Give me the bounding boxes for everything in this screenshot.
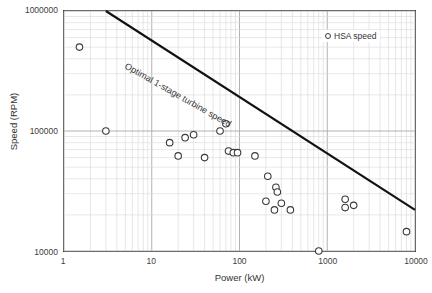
data-point[interactable] — [182, 134, 189, 141]
data-point[interactable] — [175, 153, 182, 160]
scatter-chart: 100001000001000000 110100100010000 Power… — [0, 0, 432, 293]
data-point[interactable] — [103, 128, 110, 135]
plot-area — [63, 10, 416, 252]
data-point[interactable] — [76, 44, 83, 51]
y-tick-label: 1000000 — [25, 5, 58, 15]
legend[interactable]: HSA speed — [322, 30, 380, 42]
data-point[interactable] — [252, 153, 259, 160]
x-tick-label: 10 — [147, 256, 156, 266]
data-points[interactable] — [64, 11, 415, 251]
x-tick-label: 1 — [61, 256, 66, 266]
y-tick-label: 100000 — [30, 126, 58, 136]
x-tick-label: 10000 — [404, 256, 428, 266]
data-point[interactable] — [166, 139, 173, 146]
legend-marker-icon — [325, 33, 331, 39]
x-axis-ticks: 110100100010000 — [63, 256, 416, 270]
legend-label: HSA speed — [334, 31, 377, 41]
data-point[interactable] — [201, 154, 208, 161]
data-point[interactable] — [264, 173, 271, 180]
data-point[interactable] — [287, 207, 294, 214]
data-point[interactable] — [403, 228, 410, 235]
x-axis-title: Power (kW) — [63, 272, 416, 283]
x-tick-label: 100 — [232, 256, 246, 266]
data-point[interactable] — [315, 248, 322, 255]
x-tick-label: 1000 — [318, 256, 337, 266]
data-point[interactable] — [190, 132, 197, 139]
data-point[interactable] — [263, 198, 270, 205]
data-point[interactable] — [274, 189, 281, 196]
y-axis-title: Speed (RPM) — [8, 57, 19, 187]
data-point[interactable] — [350, 202, 357, 209]
data-point[interactable] — [342, 196, 349, 203]
y-tick-label: 10000 — [34, 247, 58, 257]
data-point[interactable] — [217, 128, 224, 135]
data-point[interactable] — [342, 204, 349, 211]
data-point[interactable] — [271, 207, 278, 214]
data-point[interactable] — [234, 149, 241, 156]
data-point[interactable] — [278, 200, 285, 207]
